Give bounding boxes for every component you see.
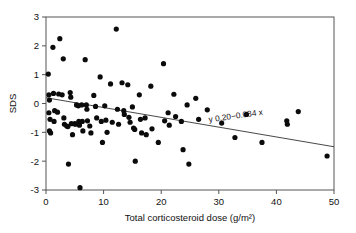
data-point bbox=[162, 118, 167, 123]
plot-canvas: 3210-1-2-301020304050SDSTotal corticoste… bbox=[0, 0, 356, 233]
data-point bbox=[50, 45, 55, 50]
data-point bbox=[51, 119, 56, 124]
data-point bbox=[46, 71, 51, 76]
data-point bbox=[51, 91, 56, 96]
data-point bbox=[119, 80, 124, 85]
y-tick-label: 3 bbox=[34, 11, 39, 22]
data-point bbox=[180, 147, 185, 152]
data-point bbox=[126, 115, 131, 120]
data-point bbox=[77, 185, 82, 190]
data-point bbox=[93, 104, 98, 109]
data-point bbox=[70, 132, 75, 137]
y-axis-title: SDS bbox=[7, 94, 18, 114]
data-point bbox=[66, 161, 71, 166]
data-point bbox=[110, 120, 115, 125]
data-point bbox=[55, 110, 60, 115]
y-tick-label: 1 bbox=[34, 69, 39, 80]
data-point bbox=[99, 119, 104, 124]
data-point bbox=[205, 107, 210, 112]
y-tick-label: -1 bbox=[31, 127, 39, 138]
y-tick-label: -2 bbox=[31, 156, 39, 167]
data-point bbox=[80, 128, 85, 133]
data-point bbox=[47, 97, 52, 102]
data-point bbox=[125, 82, 130, 87]
data-point bbox=[149, 126, 154, 131]
data-point bbox=[156, 140, 161, 145]
data-point bbox=[115, 107, 120, 112]
data-point bbox=[285, 122, 290, 127]
data-point bbox=[80, 119, 85, 124]
data-point bbox=[87, 123, 92, 128]
data-point bbox=[161, 61, 166, 66]
data-point bbox=[68, 95, 73, 100]
data-point bbox=[46, 110, 51, 115]
x-axis-title: Total corticosteroid dose (g/m²) bbox=[125, 212, 255, 223]
data-point bbox=[185, 102, 190, 107]
scatter-plot-figure: 3210-1-2-301020304050SDSTotal corticoste… bbox=[0, 0, 356, 233]
data-point bbox=[179, 119, 184, 124]
x-tick-label: 40 bbox=[271, 196, 282, 207]
data-point bbox=[130, 104, 135, 109]
data-point bbox=[133, 159, 138, 164]
data-point bbox=[61, 56, 66, 61]
data-point bbox=[138, 117, 143, 122]
data-point bbox=[324, 153, 329, 158]
data-point bbox=[94, 115, 99, 120]
data-point bbox=[91, 93, 96, 98]
x-tick-label: 0 bbox=[43, 196, 48, 207]
data-point bbox=[259, 140, 264, 145]
data-point bbox=[100, 140, 105, 145]
data-point bbox=[296, 109, 301, 114]
data-point bbox=[79, 102, 84, 107]
y-tick-label: -3 bbox=[31, 184, 39, 195]
data-point bbox=[167, 123, 172, 128]
data-point bbox=[139, 130, 144, 135]
data-point bbox=[116, 122, 121, 127]
data-point bbox=[60, 92, 65, 97]
data-point bbox=[114, 27, 119, 32]
data-point bbox=[173, 114, 178, 119]
data-point bbox=[186, 161, 191, 166]
data-point bbox=[57, 36, 62, 41]
data-point bbox=[122, 112, 127, 117]
data-point bbox=[68, 90, 73, 95]
y-tick-label: 0 bbox=[34, 98, 39, 109]
data-point bbox=[46, 92, 51, 97]
data-point bbox=[102, 103, 107, 108]
data-point bbox=[232, 135, 237, 140]
data-point bbox=[142, 115, 147, 120]
data-point bbox=[61, 115, 66, 120]
data-point bbox=[127, 120, 132, 125]
data-point bbox=[103, 118, 108, 123]
data-point bbox=[85, 118, 90, 123]
data-point bbox=[148, 84, 153, 89]
x-tick-label: 10 bbox=[98, 196, 109, 207]
data-point bbox=[166, 110, 171, 115]
data-point bbox=[132, 127, 137, 132]
data-point bbox=[171, 92, 176, 97]
data-point bbox=[48, 130, 53, 135]
data-point bbox=[196, 117, 201, 122]
data-point bbox=[84, 107, 89, 112]
data-point bbox=[104, 130, 109, 135]
regression-equation-label: y 0.20−0.034 x bbox=[208, 107, 264, 125]
data-point bbox=[98, 74, 103, 79]
data-point bbox=[83, 57, 88, 62]
data-point bbox=[144, 132, 149, 137]
x-tick-label: 20 bbox=[156, 196, 167, 207]
y-tick-label: 2 bbox=[34, 40, 39, 51]
x-tick-label: 50 bbox=[329, 196, 340, 207]
data-point bbox=[193, 96, 198, 101]
x-tick-label: 30 bbox=[214, 196, 225, 207]
data-point bbox=[88, 130, 93, 135]
data-point bbox=[108, 81, 113, 86]
data-point bbox=[137, 92, 142, 97]
